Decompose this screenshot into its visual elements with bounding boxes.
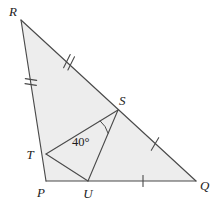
vertex-label-q: Q — [200, 178, 210, 193]
geometry-figure: R S T P U Q 40° — [0, 0, 216, 210]
vertex-label-s: S — [119, 93, 126, 108]
vertex-label-r: R — [8, 4, 17, 19]
vertex-label-p: P — [36, 185, 45, 200]
angle-label-tsu: 40° — [72, 135, 90, 149]
vertex-label-u: U — [83, 186, 94, 201]
geometry-svg: R S T P U Q 40° — [0, 0, 216, 210]
vertex-label-t: T — [26, 147, 34, 162]
